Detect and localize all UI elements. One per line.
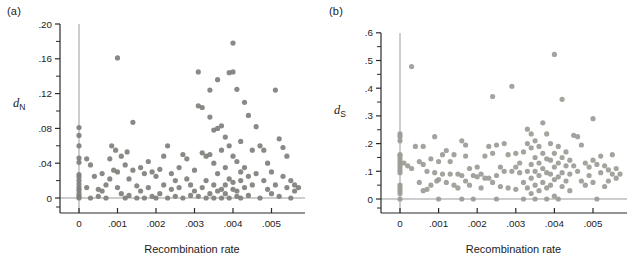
data-point [254, 171, 259, 176]
tick-label: .5 [365, 55, 374, 66]
data-point [242, 165, 247, 170]
data-point [417, 180, 422, 185]
data-point [517, 170, 522, 175]
data-point [563, 178, 568, 183]
data-point [153, 174, 158, 179]
y-axis-title-sub: N [19, 102, 25, 112]
data-point [513, 151, 518, 156]
tick-label: .001 [429, 218, 448, 229]
tick-label: .4 [365, 83, 374, 94]
data-point [76, 160, 81, 165]
data-point [126, 176, 131, 181]
data-point [215, 77, 220, 82]
data-point [134, 183, 139, 188]
data-point [234, 159, 239, 164]
data-point [123, 162, 128, 167]
data-point [587, 173, 592, 178]
data-point [598, 170, 603, 175]
data-point [284, 154, 289, 159]
data-point [517, 160, 522, 165]
data-point [219, 195, 224, 200]
tick-label: .005 [583, 218, 603, 229]
data-point [76, 133, 81, 138]
data-point [540, 166, 545, 171]
data-point [397, 170, 402, 175]
data-point [200, 150, 205, 155]
data-point [479, 172, 484, 177]
data-point [614, 176, 619, 181]
data-point [529, 131, 534, 136]
data-point [548, 141, 553, 146]
data-point [188, 193, 193, 198]
data-point [207, 88, 212, 93]
data-point [548, 158, 553, 163]
data-point [444, 148, 449, 153]
data-point [284, 185, 289, 190]
data-point [103, 182, 108, 187]
data-point [536, 144, 541, 149]
data-point [413, 144, 418, 149]
data-point [540, 180, 545, 185]
data-point [280, 174, 285, 179]
data-point [463, 178, 468, 183]
data-point [230, 69, 235, 74]
tick-label: .12 [38, 88, 52, 99]
data-point [211, 182, 216, 187]
data-point [513, 187, 518, 192]
panel-a-label: (a) [7, 5, 21, 17]
data-point [200, 185, 205, 190]
data-point [161, 154, 166, 159]
tick-label: .6 [365, 27, 374, 38]
data-point [560, 184, 565, 189]
data-point [250, 148, 255, 153]
data-point [219, 148, 224, 153]
data-point [602, 184, 607, 189]
data-point [594, 196, 599, 201]
data-point [142, 171, 147, 176]
data-point [109, 143, 114, 148]
data-point [583, 160, 588, 165]
data-point [153, 195, 158, 200]
tick-label: .16 [38, 53, 52, 64]
data-point [529, 191, 534, 196]
data-point [115, 55, 120, 60]
data-point [238, 139, 243, 144]
data-point [463, 142, 468, 147]
data-point [548, 172, 553, 177]
data-point [471, 196, 476, 201]
data-point [288, 195, 293, 200]
data-point [246, 113, 251, 118]
data-point [223, 135, 228, 140]
data-point [479, 185, 484, 190]
data-point [215, 171, 220, 176]
data-point [421, 144, 426, 149]
tick-label: 0 [47, 193, 53, 204]
data-point [602, 163, 607, 168]
data-point [486, 176, 491, 181]
tick-label: .04 [38, 158, 52, 169]
data-point [119, 154, 124, 159]
data-point [234, 188, 239, 193]
data-point [177, 185, 182, 190]
data-point [459, 173, 464, 178]
data-point [254, 124, 259, 129]
data-point [134, 195, 139, 200]
data-point [560, 97, 565, 102]
data-point [536, 188, 541, 193]
data-point [486, 144, 491, 149]
data-point [467, 166, 472, 171]
data-point [552, 52, 557, 57]
data-point [563, 149, 568, 154]
data-point [161, 182, 166, 187]
panel-b-label: (b) [329, 5, 343, 17]
data-point [598, 154, 603, 159]
data-point [169, 171, 174, 176]
data-point [506, 185, 511, 190]
data-point [556, 174, 561, 179]
data-point [533, 138, 538, 143]
data-point [192, 188, 197, 193]
tick-label: .2 [365, 138, 373, 149]
data-point [567, 158, 572, 163]
data-point [614, 166, 619, 171]
data-point [552, 165, 557, 170]
